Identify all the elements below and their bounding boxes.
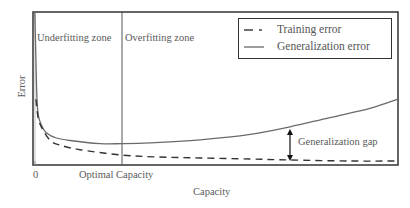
x-axis-label: Capacity [193,186,230,197]
x-tick-label-optimal-capacity: Optimal Capacity [79,169,153,180]
training-error-curve [36,99,398,161]
solid-line-icon [244,39,266,55]
legend: Training error Generalization error [238,18,392,59]
x-tick-label-zero: 0 [33,169,38,180]
legend-label: Generalization error [277,40,370,52]
overfitting-zone-label: Overfitting zone [125,32,194,43]
underfitting-zone-label: Underfitting zone [37,32,111,43]
dashed-line-icon [244,22,266,38]
legend-item-training-error: Training error [239,22,391,38]
generalization-gap-arrow [287,129,293,161]
y-axis-label: Error [16,70,27,104]
legend-item-generalization-error: Generalization error [239,39,391,55]
legend-label: Training error [277,23,341,35]
generalization-gap-label: Generalization gap [298,136,378,147]
